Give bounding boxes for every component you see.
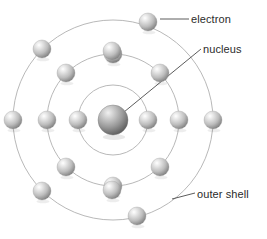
electron-sphere [139,13,157,34]
electron-sphere [128,207,146,228]
atom-diagram-figure: electron nucleus outer shell [0,0,267,239]
label-outer-shell: outer shell [197,188,249,200]
electron-sphere [139,111,157,132]
electron-sphere [57,158,75,179]
electron-sphere [33,182,51,203]
atom-diagram-canvas [0,0,267,239]
label-nucleus: nucleus [203,43,242,55]
electron-sphere [151,158,169,179]
electron-sphere [57,64,75,85]
electron-sphere [38,111,56,132]
electron-sphere [33,40,51,61]
outer-shell-leader [172,193,195,199]
nucleus-sphere [98,105,128,140]
electron-sphere [103,181,121,202]
label-electron: electron [191,13,231,25]
electron-sphere [4,111,22,132]
electron-sphere [170,111,188,132]
electron-sphere [204,111,222,132]
electron-sphere [151,64,169,85]
nucleus [98,105,128,140]
electron-sphere [69,111,87,132]
